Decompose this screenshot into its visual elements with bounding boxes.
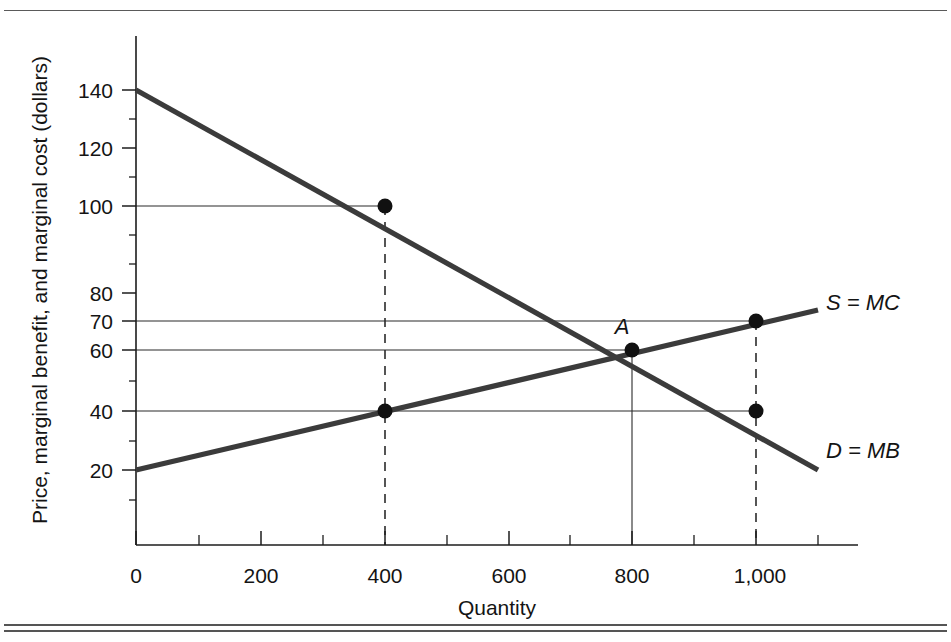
data-points: [378, 199, 764, 419]
y-tick-label-140: 140: [78, 79, 113, 102]
y-tick-label-40: 40: [90, 400, 113, 423]
point-400-40: [378, 404, 393, 419]
bottom-rule-upper: [4, 624, 947, 626]
demand-curve-label: D = MB: [826, 438, 900, 463]
curves: [136, 90, 818, 470]
demand-curve: [136, 90, 818, 470]
y-axis-ticks: [122, 90, 136, 500]
y-tick-label-20: 20: [90, 459, 113, 482]
point-a-label: A: [613, 314, 630, 339]
point-1000-40: [749, 404, 764, 419]
supply-curve: [136, 310, 818, 470]
supply-curve-label: S = MC: [826, 290, 900, 315]
supply-demand-chart: 140 120 100 80 70 60 40 20 0 200 400 600…: [0, 0, 951, 642]
x-tick-label-400: 400: [367, 564, 402, 587]
x-tick-label-0: 0: [130, 564, 142, 587]
y-tick-label-100: 100: [78, 195, 113, 218]
x-tick-label-200: 200: [243, 564, 278, 587]
y-tick-label-70: 70: [90, 310, 113, 333]
bottom-rule-lower: [4, 630, 947, 632]
figure-frame: 140 120 100 80 70 60 40 20 0 200 400 600…: [0, 0, 951, 642]
gridlines: [136, 206, 756, 411]
x-tick-label-800: 800: [614, 564, 649, 587]
y-tick-label-60: 60: [90, 339, 113, 362]
x-tick-labels: 0 200 400 600 800 1,000: [130, 564, 786, 587]
point-400-100: [378, 199, 393, 214]
point-a-800-60: [625, 343, 640, 358]
y-axis-title: Price, marginal benefit, and marginal co…: [28, 56, 51, 524]
x-tick-label-1000: 1,000: [734, 564, 787, 587]
y-tick-labels: 140 120 100 80 70 60 40 20: [78, 79, 113, 482]
x-axis-title: Quantity: [458, 596, 537, 619]
x-axis-ticks: [136, 531, 818, 545]
x-tick-label-600: 600: [491, 564, 526, 587]
point-1000-70: [749, 314, 764, 329]
y-tick-label-120: 120: [78, 137, 113, 160]
y-tick-label-80: 80: [90, 282, 113, 305]
